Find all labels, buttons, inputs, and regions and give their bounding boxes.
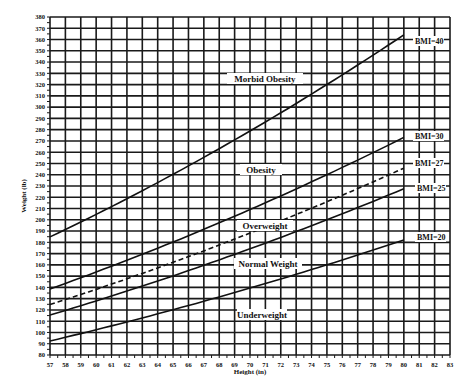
y-tick-label: 300 (35, 103, 45, 110)
y-tick-label: 380 (35, 13, 45, 20)
x-tick-label: 79 (385, 361, 392, 368)
x-tick-label: 64 (154, 361, 161, 368)
x-tick-label: 61 (108, 361, 115, 368)
y-tick-label: 280 (35, 126, 45, 133)
x-tick-label: 65 (170, 361, 177, 368)
y-tick-label: 250 (35, 160, 45, 167)
x-tick-label: 78 (370, 361, 377, 368)
y-tick-label: 180 (35, 239, 45, 246)
x-axis-title: Height (in) (234, 368, 267, 376)
y-tick-label: 190 (35, 227, 45, 234)
y-tick-label: 230 (35, 182, 45, 189)
x-tick-label: 63 (139, 361, 146, 368)
y-tick-label: 120 (35, 306, 45, 313)
x-tick-label: 82 (431, 361, 438, 368)
x-tick-label: 60 (93, 361, 100, 368)
label-bmi-27: BMI=27 (415, 159, 444, 168)
y-tick-label: 240 (35, 171, 45, 178)
y-tick-label: 80 (39, 351, 46, 358)
x-tick-label: 83 (447, 361, 454, 368)
x-tick-label: 62 (124, 361, 131, 368)
y-tick-label: 160 (35, 261, 45, 268)
line-bmi-27 (50, 168, 404, 304)
y-tick-label: 290 (35, 115, 45, 122)
y-tick-label: 330 (35, 70, 45, 77)
x-tick-label: 74 (308, 361, 315, 368)
label-overweight: Overweight (243, 221, 288, 231)
y-tick-label: 260 (35, 149, 45, 156)
minor-ticks (47, 17, 450, 358)
y-tick-label: 360 (35, 36, 45, 43)
x-tick-label: 81 (416, 361, 423, 368)
label-bmi-40: BMI=40 (415, 37, 444, 46)
y-tick-label: 200 (35, 216, 45, 223)
label-underweight: Underweight (237, 310, 287, 320)
x-tick-label: 80 (401, 361, 408, 368)
y-tick-label: 310 (35, 92, 45, 99)
x-tick-label: 66 (185, 361, 192, 368)
x-tick-label: 72 (278, 361, 285, 368)
y-tick-label: 220 (35, 194, 45, 201)
y-tick-label: 140 (35, 284, 45, 291)
y-tick-label: 90 (39, 340, 46, 347)
x-tick-label: 68 (216, 361, 223, 368)
line-bmi-25 (50, 189, 404, 315)
y-axis-ticks: 8090100110120130140150160170180190200210… (35, 13, 45, 358)
x-tick-label: 75 (324, 361, 331, 368)
x-tick-label: 57 (47, 361, 54, 368)
line-bmi-20 (50, 240, 404, 341)
x-tick-label: 71 (262, 361, 269, 368)
y-tick-label: 150 (35, 272, 45, 279)
label-obesity: Obesity (246, 165, 276, 175)
y-tick-label: 170 (35, 250, 45, 257)
y-tick-label: 210 (35, 205, 45, 212)
label-bmi-25: BMI=25 (417, 184, 446, 193)
label-morbid-obesity: Morbid Obesity (234, 74, 296, 84)
bmi-labels: BMI=40 BMI=30 BMI=27 BMI=25 BMI=20 (413, 36, 446, 242)
x-tick-label: 58 (62, 361, 69, 368)
x-tick-label: 70 (247, 361, 254, 368)
y-axis-title: Weight (lb) (20, 179, 28, 213)
bmi-lines (50, 35, 404, 341)
y-tick-label: 110 (36, 318, 45, 325)
label-bmi-30: BMI=30 (415, 132, 444, 141)
bmi-chart: 8090100110120130140150160170180190200210… (0, 0, 476, 390)
y-tick-label: 320 (35, 81, 45, 88)
y-tick-label: 130 (35, 295, 45, 302)
line-bmi-30 (50, 137, 404, 289)
x-tick-label: 59 (78, 361, 85, 368)
y-tick-label: 340 (35, 58, 45, 65)
x-tick-label: 73 (293, 361, 300, 368)
x-axis-ticks: 5758596061626364656667686970717273747576… (47, 361, 454, 368)
y-tick-label: 270 (35, 137, 45, 144)
x-tick-label: 77 (354, 361, 361, 368)
label-bmi-20: BMI=20 (417, 233, 446, 242)
y-tick-label: 350 (35, 47, 45, 54)
grid (50, 17, 450, 355)
x-tick-label: 67 (201, 361, 208, 368)
y-tick-label: 100 (35, 329, 45, 336)
line-bmi-40 (50, 35, 404, 237)
y-tick-label: 370 (35, 25, 45, 32)
label-normal-weight: Normal Weight (238, 259, 297, 269)
x-tick-label: 69 (231, 361, 238, 368)
x-tick-label: 76 (339, 361, 346, 368)
